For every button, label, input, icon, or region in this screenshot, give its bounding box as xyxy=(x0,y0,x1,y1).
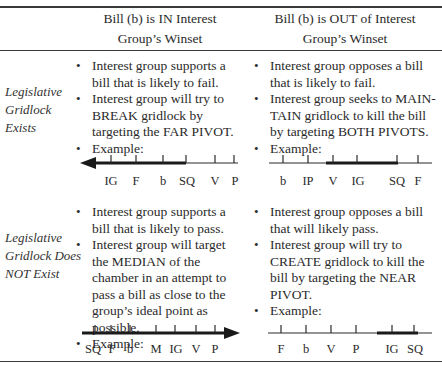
point-label: P xyxy=(353,342,360,356)
point-label: b xyxy=(303,342,309,356)
point-label: V xyxy=(326,342,335,356)
point-label: SQ xyxy=(407,342,423,356)
point-label: F xyxy=(278,342,285,356)
diagram-no-gridlock-out: F b V P IG SQ xyxy=(0,0,442,366)
point-label: IG xyxy=(385,342,398,356)
